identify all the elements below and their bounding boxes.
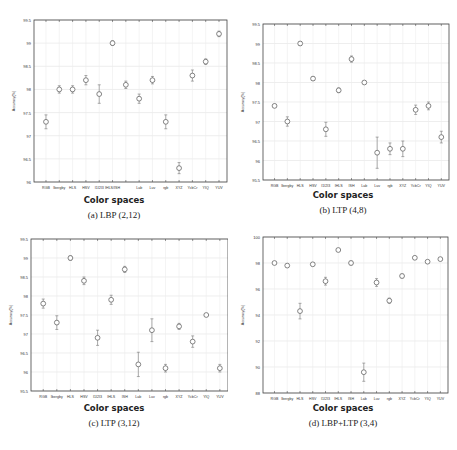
y-axis-title: Accuracy(%) (12, 91, 16, 111)
x-tick-label: I1I2I3 (321, 184, 330, 188)
data-point (349, 56, 354, 62)
y-tick-label: 97 (256, 120, 261, 125)
y-tick-label: 95.5 (252, 178, 261, 183)
data-point (412, 255, 417, 260)
x-tick-label: ISH (349, 184, 355, 188)
data-point (68, 256, 73, 261)
data-point (362, 80, 367, 85)
data-point (163, 364, 168, 372)
x-tick-label: XYZ (176, 395, 184, 399)
y-axis-title: Accuracy(%) (241, 92, 245, 112)
x-tick-label: HSV (80, 395, 88, 399)
x-tick-label: YUV (215, 186, 223, 190)
x-tick-label: ISH (122, 395, 128, 399)
data-point (204, 313, 209, 318)
chart-panel-c: 95.59696.59797.59898.59999.5RGBIbergbyHL… (0, 225, 228, 450)
data-point (70, 86, 75, 93)
x-tick-label: IHLS (107, 395, 116, 399)
data-point (311, 76, 316, 81)
x-tick-label: YUV (437, 397, 445, 401)
x-tick-label: HLS (69, 186, 77, 190)
x-tick-label: I1I2I3 (321, 397, 330, 401)
x-tick-label: RGB (42, 186, 50, 190)
x-tick-label: I1I2I3 (95, 186, 104, 190)
data-point (413, 105, 418, 114)
data-point (150, 76, 155, 83)
data-point (136, 352, 141, 376)
y-tick-label: 100 (253, 235, 260, 240)
data-point (438, 257, 443, 262)
data-point (349, 261, 354, 266)
data-point (44, 115, 49, 129)
x-tick-label: Ibergby (51, 395, 63, 399)
chart-panel-b: 95.59696.59797.59898.59999.5RGBIbergbyHL… (229, 0, 457, 225)
data-point (177, 323, 182, 329)
x-tick-label: YIQ (203, 395, 209, 399)
data-point (374, 279, 379, 287)
plot-frame (34, 20, 227, 182)
data-point (217, 31, 222, 37)
x-tick-label: IHLS (334, 397, 343, 401)
y-axis-title: Accuracy(%) (9, 305, 13, 325)
y-tick-label: 92 (256, 339, 261, 344)
x-tick-label: IHLS (335, 184, 344, 188)
y-tick-label: 98 (256, 81, 261, 86)
y-tick-label: 95.5 (20, 389, 29, 394)
y-tick-label: 98.5 (20, 275, 29, 280)
data-point (122, 266, 127, 272)
y-tick-label: 88 (256, 391, 261, 396)
x-tick-label: I1I2I3 (93, 395, 102, 399)
data-point (426, 102, 431, 110)
chart-panel-a: 9696.59797.59898.59999.5RGBIbergbyHLSHSV… (0, 0, 228, 225)
y-tick-label: 99.5 (252, 22, 261, 27)
data-point (298, 303, 303, 319)
data-point (41, 299, 46, 308)
data-point (285, 117, 290, 126)
x-axis-title-c: Color spaces (0, 403, 228, 413)
data-point (190, 70, 195, 81)
data-point (82, 277, 87, 285)
x-tick-label: rgb (387, 397, 392, 401)
x-tick-label: Ibergby (281, 184, 293, 188)
x-tick-label: YIQ (424, 397, 430, 401)
x-tick-label: HSV (82, 186, 90, 190)
x-tick-label: HSV (309, 184, 317, 188)
chart-panel-d: 889092949698100RGBIbergbyHLSHSVI1I2I3IHL… (229, 225, 457, 450)
x-tick-label: Luv (374, 397, 380, 401)
y-tick-label: 96 (27, 180, 32, 185)
y-tick-label: 97.5 (20, 313, 29, 318)
data-point (425, 259, 430, 264)
x-tick-label: rgb (163, 186, 168, 190)
y-tick-label: 96 (256, 287, 261, 292)
x-tick-label: RGB (271, 397, 279, 401)
y-tick-label: 97 (27, 134, 32, 139)
x-tick-label: XYZ (399, 397, 407, 401)
caption-d: (d) LBP+LTP (3,4) (229, 418, 457, 428)
data-point (150, 319, 155, 342)
data-point (177, 163, 182, 174)
data-point (336, 248, 341, 253)
x-tick-label: HSV (309, 397, 317, 401)
x-tick-label: YcbCr (411, 184, 422, 188)
data-point (203, 59, 208, 65)
data-point (388, 143, 393, 155)
x-tick-label: XYZ (176, 186, 184, 190)
data-point (336, 88, 341, 93)
data-point (375, 137, 380, 168)
plot-b: 95.59696.59797.59898.59999.5RGBIbergbyHL… (229, 0, 457, 195)
data-point (95, 330, 100, 345)
data-point (400, 141, 405, 157)
x-tick-label: rgb (387, 184, 392, 188)
caption-a: (a) LBP (2,12) (0, 210, 228, 220)
y-tick-label: 98 (256, 261, 261, 266)
data-point (310, 262, 315, 267)
y-tick-label: 96 (256, 159, 261, 164)
x-tick-label: YIQ (203, 186, 209, 190)
data-point (123, 81, 128, 88)
data-point (400, 274, 405, 279)
caption-b: (b) LTP (4,8) (229, 205, 457, 215)
y-tick-label: 99.5 (23, 18, 32, 23)
x-axis-title-a: Color spaces (0, 195, 228, 205)
x-tick-label: RGB (39, 395, 47, 399)
x-tick-label: IHLS/ISH (105, 186, 120, 190)
